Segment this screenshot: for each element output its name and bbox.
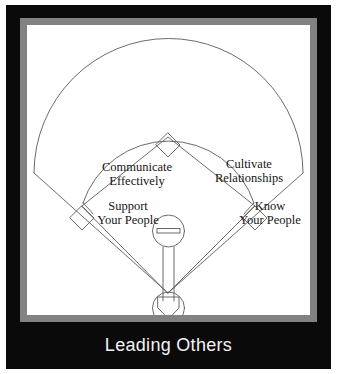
outfield-fence-arc (34, 38, 303, 173)
label-communicate-effectively: Communicate Effectively (90, 161, 184, 188)
poster-root: Communicate Effectively Cultivate Relati… (0, 0, 337, 374)
label-cultivate-line1: Cultivate (199, 158, 299, 172)
label-communicate-line2: Effectively (90, 175, 184, 189)
label-cultivate-line2: Relationships (199, 172, 299, 186)
label-support-your-people: Support Your People (84, 200, 172, 227)
label-know-line2: Your People (226, 214, 310, 228)
banner-title-text: Leading Others (105, 336, 232, 354)
label-know-your-people: Know Your People (226, 200, 310, 227)
label-support-line2: Your People (84, 214, 172, 228)
home-plate-pentagon (158, 297, 179, 315)
batters-circle (153, 292, 185, 315)
label-support-line1: Support (84, 200, 172, 214)
label-cultivate-relationships: Cultivate Relationships (199, 158, 299, 185)
label-communicate-line1: Communicate (90, 161, 184, 175)
title-banner: Leading Others (20, 325, 317, 365)
baseball-field-canvas: Communicate Effectively Cultivate Relati… (27, 25, 310, 315)
label-know-line1: Know (226, 200, 310, 214)
pitchers-rubber (157, 229, 180, 234)
